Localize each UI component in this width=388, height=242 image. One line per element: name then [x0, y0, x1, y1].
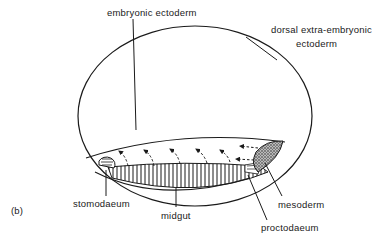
- leader-embryonic-ectoderm: [133, 19, 136, 130]
- label-proctodaeum: proctodaeum: [261, 222, 319, 233]
- label-midgut: midgut: [161, 210, 191, 221]
- label-dorsal-line1: dorsal extra-embryonic: [271, 24, 372, 35]
- panel-label: (b): [11, 205, 23, 216]
- stomodaeum-shape: [99, 157, 115, 168]
- leader-proctodaeum: [248, 175, 267, 220]
- leader-mesoderm: [265, 163, 282, 196]
- label-embryonic-ectoderm: embryonic ectoderm: [107, 7, 197, 18]
- label-dorsal-line2: ectoderm: [296, 38, 337, 49]
- label-stomodaeum: stomodaeum: [73, 198, 130, 209]
- embryo-diagram: [0, 0, 388, 242]
- label-mesoderm: mesoderm: [278, 199, 324, 210]
- midgut-band: [108, 163, 268, 187]
- mesoderm-shape: [253, 141, 283, 172]
